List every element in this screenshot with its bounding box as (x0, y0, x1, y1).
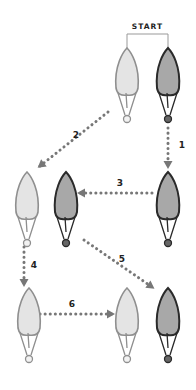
start-label: START (132, 22, 163, 31)
bulb-step5-dark (157, 288, 180, 363)
step-number-label: 3 (117, 178, 123, 188)
arrow-step-5: 5 (84, 240, 154, 289)
arrow-step-2: 2 (38, 112, 108, 168)
arrowhead-icon (20, 279, 29, 287)
step-number-label: 6 (69, 299, 75, 309)
arrowhead-icon (38, 159, 47, 167)
start-bracket: START (127, 22, 168, 48)
arrowhead-icon (107, 310, 115, 319)
bulb-step6-light (116, 288, 139, 363)
arrow-step-3: 3 (77, 178, 152, 198)
bulbs-layer (16, 48, 180, 363)
arrowhead-icon (77, 189, 85, 198)
step-number-label: 5 (119, 254, 125, 264)
arrow-step-4: 4 (20, 247, 38, 287)
bulb-start-dark (157, 48, 180, 123)
bulb-step4-light (18, 288, 41, 363)
arrow-step-1: 1 (164, 128, 186, 169)
bulb-step2-light (16, 172, 39, 247)
step-number-label: 4 (31, 260, 37, 270)
step-number-label: 1 (179, 140, 185, 150)
diagram-canvas: START 123456 (0, 0, 196, 390)
bulb-step1-dark (157, 172, 180, 247)
step-number-label: 2 (73, 130, 79, 140)
arrow-step-6: 6 (40, 299, 115, 319)
arrowhead-icon (164, 161, 173, 169)
bulb-start-light (116, 48, 139, 123)
bulb-step3-dark (55, 172, 78, 247)
